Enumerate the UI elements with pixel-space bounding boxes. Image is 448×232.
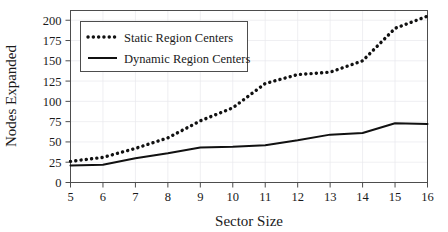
x-tick-label: 7 — [132, 190, 138, 204]
x-tick-label: 14 — [356, 190, 369, 204]
series-dynamic-region-centers — [71, 123, 428, 165]
legend-label-dynamic: Dynamic Region Centers — [124, 52, 250, 66]
x-tick-label: 8 — [165, 190, 171, 204]
y-tick-label: 125 — [43, 75, 62, 89]
x-axis-title: Sector Size — [215, 213, 283, 229]
x-tick-label: 15 — [389, 190, 402, 204]
y-tick-label: 200 — [43, 14, 62, 28]
x-tick-labels: 5678910111213141516 — [67, 190, 433, 204]
y-tick-label: 75 — [49, 115, 62, 129]
x-tick-label: 5 — [67, 190, 73, 204]
y-axis-title: Nodes Expanded — [3, 44, 19, 147]
y-tickmarks — [66, 20, 71, 182]
y-tick-label: 25 — [49, 156, 62, 170]
x-tick-label: 10 — [227, 190, 240, 204]
legend-label-static: Static Region Centers — [124, 31, 233, 45]
y-tick-label: 100 — [43, 95, 62, 109]
x-tick-label: 9 — [197, 190, 203, 204]
y-tick-labels: 0255075100125150175200 — [43, 14, 62, 190]
chart-legend: Static Region Centers Dynamic Region Cen… — [81, 22, 251, 72]
x-tick-label: 13 — [324, 190, 337, 204]
x-tickmarks — [71, 183, 428, 188]
y-tick-label: 0 — [55, 176, 61, 190]
x-tick-label: 16 — [421, 190, 434, 204]
x-tick-label: 11 — [259, 190, 271, 204]
x-tick-label: 6 — [100, 190, 106, 204]
x-tick-label: 12 — [291, 190, 304, 204]
y-tick-label: 150 — [43, 54, 62, 68]
y-tick-label: 50 — [49, 135, 62, 149]
line-chart: 5678910111213141516 02550751001251501752… — [0, 0, 448, 232]
y-tick-label: 175 — [43, 34, 62, 48]
chart-figure: 5678910111213141516 02550751001251501752… — [0, 0, 448, 232]
